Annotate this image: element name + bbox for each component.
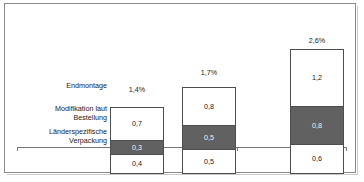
segment-endmontage-prognose-2008[interactable]: 1,2 [290,49,344,107]
segment-value: 0,4 [132,160,142,167]
row-label-modifikation-line2: Bestellung [73,113,107,122]
category-label-2003: 2003 [164,180,254,182]
segment-endmontage-2003[interactable]: 0,8 [182,87,236,126]
frame-shadow-bottom [7,174,358,175]
bar-stack-2003: 0,8 0,5 0,5 [182,87,236,174]
segment-verpackung-prognose-2008[interactable]: 0,6 [290,144,344,174]
axis-tick-end [346,147,347,151]
segment-modifikation-1998[interactable]: 0,3 [110,140,164,155]
segment-modifikation-prognose-2008[interactable]: 0,8 [290,106,344,145]
frame-shadow-right [357,6,358,175]
category-label-prognose-2008: Prognose 2008 [272,180,362,182]
row-label-verpackung-line2: Verpackung [69,136,107,145]
bar-group-1998: 1,4% 0,7 0,3 0,4 1998 [110,31,164,174]
segment-value: 0,8 [204,103,214,110]
axis-tick-start [17,147,18,151]
bar-stack-1998: 0,7 0,3 0,4 [110,107,164,174]
segment-value: 0,5 [204,134,214,141]
segment-value: 1,2 [312,74,322,81]
segment-modifikation-2003[interactable]: 0,5 [182,125,236,150]
total-label-prognose-2008: 2,6% [290,36,344,45]
row-label-verpackung-line1: Länderspezifische [49,127,107,136]
bar-stack-prognose-2008: 1,2 0,8 0,6 [290,49,344,174]
row-label-endmontage: Endmontage [66,81,107,90]
segment-verpackung-2003[interactable]: 0,5 [182,149,236,174]
axis-tick-2 [237,147,238,151]
segment-value: 0,8 [312,122,322,129]
segment-value: 0,7 [132,120,142,127]
plot-area: Endmontage Modifikation laut Bestellung … [5,4,357,174]
segment-value: 0,6 [312,155,322,162]
total-label-1998: 1,4% [110,85,164,94]
row-label-verpackung: Länderspezifische Verpackung [49,127,107,145]
total-label-2003: 1,7% [182,68,236,77]
segment-value: 0,5 [204,158,214,165]
bar-group-2003: 1,7% 0,8 0,5 0,5 2003 [182,31,236,174]
segment-endmontage-1998[interactable]: 0,7 [110,107,164,141]
figure-frame: Endmontage Modifikation laut Bestellung … [4,3,356,173]
bar-group-prognose-2008: 2,6% 1,2 0,8 0,6 Prognose 2008 [290,31,344,174]
segment-verpackung-1998[interactable]: 0,4 [110,154,164,174]
row-label-modifikation-line1: Modifikation laut [55,104,107,113]
chart-screenshot: Endmontage Modifikation laut Bestellung … [0,0,364,182]
segment-value: 0,3 [132,144,142,151]
row-label-modifikation: Modifikation laut Bestellung [55,104,107,122]
